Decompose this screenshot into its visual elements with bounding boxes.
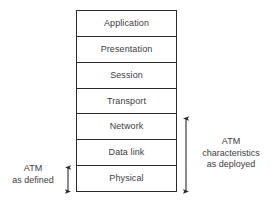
atm-osi-layer-diagram: Application Presentation Session Transpo…: [0, 0, 271, 209]
annotation-line: characteristics: [193, 148, 269, 160]
layer-label: Physical: [109, 174, 143, 183]
annotation-line: ATM: [193, 136, 269, 148]
osi-layer-stack: Application Presentation Session Transpo…: [76, 10, 177, 192]
layer-row: Presentation: [77, 37, 176, 63]
layer-label: Transport: [107, 97, 146, 106]
annotation-line: as defined: [4, 175, 62, 187]
layer-row: Physical: [77, 166, 176, 191]
layer-row: Network: [77, 114, 176, 140]
atm-characteristics-label: ATM characteristics as deployed: [193, 136, 269, 171]
layer-row: Data link: [77, 140, 176, 166]
layer-label: Data link: [109, 148, 145, 157]
layer-row: Transport: [77, 89, 176, 115]
layer-label: Session: [110, 71, 143, 80]
layer-label: Network: [110, 122, 144, 131]
annotation-line: as deployed: [193, 159, 269, 171]
atm-as-defined-label: ATM as defined: [4, 163, 62, 186]
annotation-line: ATM: [4, 163, 62, 175]
layer-row: Application: [77, 11, 176, 37]
layer-label: Presentation: [101, 45, 153, 54]
layer-row: Session: [77, 63, 176, 89]
layer-label: Application: [104, 19, 149, 28]
